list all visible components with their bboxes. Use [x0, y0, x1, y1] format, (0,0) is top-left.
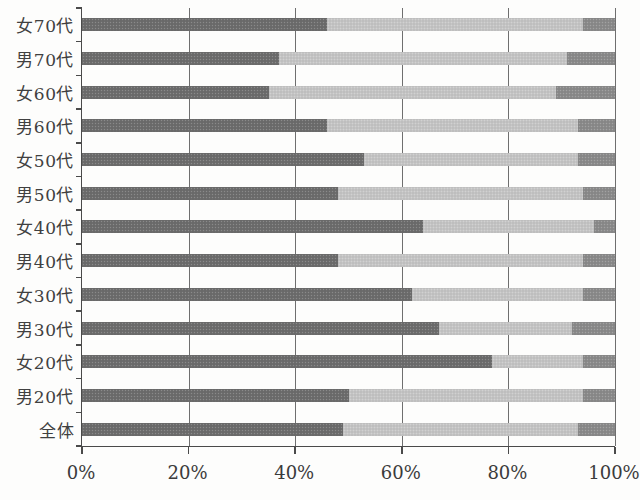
y-axis-tick: [76, 75, 82, 77]
bar-segment-dark-end: [567, 52, 615, 65]
category-label: 女40代: [0, 210, 74, 244]
category-label: 男60代: [0, 109, 74, 143]
bar-segment-light: [327, 119, 578, 132]
bar-segment-dark: [82, 389, 349, 402]
bar-segment-light: [364, 153, 577, 166]
bar-segment-dark-end: [583, 18, 615, 31]
bar-segment-dark-end: [572, 322, 615, 335]
x-axis-tick-label: 100%: [588, 462, 639, 483]
x-axis-tick-label: 20%: [168, 462, 208, 483]
bar-segment-dark-end: [578, 119, 615, 132]
bar-segment-light: [423, 220, 594, 233]
bar-track: [82, 288, 615, 301]
y-axis-category-labels: 女70代男70代女60代男60代女50代男50代女40代男40代女30代男30代…: [0, 8, 74, 446]
bar-segment-light: [439, 322, 572, 335]
x-axis-tick-label: 0%: [67, 462, 96, 483]
bar-segment-dark: [82, 119, 327, 132]
bar-track: [82, 322, 615, 335]
bar-segment-light: [338, 187, 583, 200]
bar-segment-light: [412, 288, 583, 301]
bar-track: [82, 187, 615, 200]
bar-segment-dark: [82, 322, 439, 335]
bar-segment-light: [338, 254, 583, 267]
category-label: 男70代: [0, 42, 74, 76]
x-axis-tick-label: 60%: [381, 462, 421, 483]
x-axis-labels: 0%20%40%60%80%100%: [81, 446, 614, 490]
bar-segment-dark-end: [583, 187, 615, 200]
bar-track: [82, 423, 615, 436]
gridline: [615, 8, 616, 446]
chart-row: [82, 176, 615, 210]
bar-segment-dark: [82, 220, 423, 233]
bar-segment-dark-end: [583, 389, 615, 402]
bar-segment-light: [269, 86, 557, 99]
bar-segment-dark-end: [583, 254, 615, 267]
bar-track: [82, 389, 615, 402]
category-label: 女20代: [0, 345, 74, 379]
chart-row: [82, 379, 615, 413]
bar-track: [82, 18, 615, 31]
y-axis-tick: [76, 41, 82, 43]
bar-segment-dark: [82, 423, 343, 436]
category-label: 男30代: [0, 311, 74, 345]
chart-row: [82, 75, 615, 109]
y-axis-tick: [76, 378, 82, 380]
category-label: 全体: [0, 412, 74, 446]
bar-segment-dark: [82, 187, 338, 200]
chart-row: [82, 42, 615, 76]
chart-row: [82, 278, 615, 312]
y-axis-tick: [76, 310, 82, 312]
bar-track: [82, 220, 615, 233]
chart-row: [82, 345, 615, 379]
bar-segment-light: [343, 423, 578, 436]
chart-row: [82, 244, 615, 278]
bar-track: [82, 119, 615, 132]
bar-segment-dark: [82, 52, 279, 65]
x-axis-tick-label: 40%: [274, 462, 314, 483]
y-axis-tick: [76, 344, 82, 346]
bar-segment-dark: [82, 18, 327, 31]
y-axis-tick: [76, 7, 82, 9]
category-label: 女50代: [0, 143, 74, 177]
bar-segment-dark-end: [583, 288, 615, 301]
bar-track: [82, 254, 615, 267]
bar-track: [82, 86, 615, 99]
y-axis-tick: [76, 277, 82, 279]
y-axis-tick: [76, 412, 82, 414]
bar-segment-dark: [82, 86, 269, 99]
bar-segment-dark-end: [556, 86, 615, 99]
category-label: 男20代: [0, 379, 74, 413]
bar-segment-dark-end: [583, 355, 615, 368]
bar-segment-light: [492, 355, 583, 368]
y-axis-tick: [76, 108, 82, 110]
category-label: 男50代: [0, 176, 74, 210]
y-axis-tick: [76, 209, 82, 211]
bar-segment-dark-end: [578, 423, 615, 436]
x-axis-tick: [614, 447, 616, 454]
bar-segment-light: [349, 389, 584, 402]
bar-track: [82, 52, 615, 65]
category-label: 女30代: [0, 278, 74, 312]
bar-segment-dark: [82, 153, 364, 166]
bar-segment-dark: [82, 288, 412, 301]
bar-segment-light: [327, 18, 583, 31]
x-axis-tick-label: 80%: [487, 462, 527, 483]
category-label: 男40代: [0, 244, 74, 278]
y-axis-tick: [76, 176, 82, 178]
bar-track: [82, 355, 615, 368]
bar-segment-dark: [82, 355, 492, 368]
chart-row: [82, 311, 615, 345]
y-axis-tick: [76, 243, 82, 245]
category-label: 女60代: [0, 75, 74, 109]
y-axis-tick: [76, 142, 82, 144]
chart-row: [82, 210, 615, 244]
chart-row: [82, 143, 615, 177]
bar-segment-light: [279, 52, 567, 65]
chart-row: [82, 412, 615, 446]
bar-segment-dark: [82, 254, 338, 267]
chart-row: [82, 109, 615, 143]
bar-segment-dark-end: [594, 220, 615, 233]
bar-track: [82, 153, 615, 166]
category-label: 女70代: [0, 8, 74, 42]
